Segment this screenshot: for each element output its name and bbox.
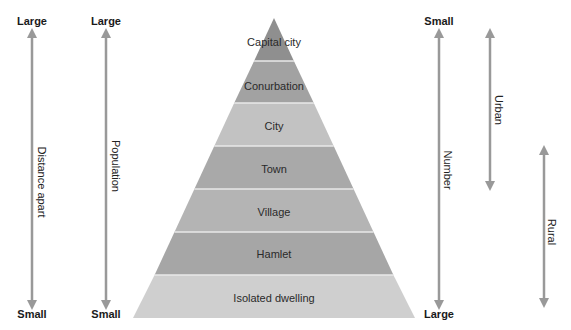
population-bottom-label: Small: [91, 308, 120, 320]
tier-label-village: Village: [258, 206, 291, 218]
tier-label-hamlet: Hamlet: [257, 248, 292, 260]
tier-label-isolated-dwelling: Isolated dwelling: [233, 292, 314, 304]
number-top-label: Small: [424, 15, 453, 27]
tier-label-capital-city: Capital city: [247, 36, 301, 48]
settlement-hierarchy-diagram: Large Small Large Small Small Large Dist…: [0, 0, 571, 330]
number-axis-label: Number: [442, 150, 454, 189]
tier-label-conurbation: Conurbation: [244, 80, 304, 92]
number-bottom-label: Large: [424, 308, 454, 320]
distance-apart-axis-label: Distance apart: [36, 147, 48, 218]
rural-axis-label: Rural: [546, 219, 558, 245]
tier-label-town: Town: [261, 163, 287, 175]
population-axis-label: Population: [110, 140, 122, 192]
urban-axis-label: Urban: [493, 95, 505, 125]
distance-apart-bottom-label: Small: [17, 308, 46, 320]
tier-label-city: City: [265, 120, 284, 132]
population-top-label: Large: [91, 15, 121, 27]
distance-apart-top-label: Large: [17, 15, 47, 27]
